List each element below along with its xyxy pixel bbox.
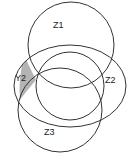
venn-diagram: Z1 Z2 Z3 Y2 bbox=[0, 0, 131, 156]
inner-circle bbox=[36, 52, 104, 120]
z3-circle bbox=[18, 68, 102, 152]
label-z3: Z3 bbox=[44, 127, 55, 137]
label-z2: Z2 bbox=[105, 75, 116, 85]
label-y2: Y2 bbox=[15, 73, 26, 83]
label-z1: Z1 bbox=[53, 20, 64, 30]
